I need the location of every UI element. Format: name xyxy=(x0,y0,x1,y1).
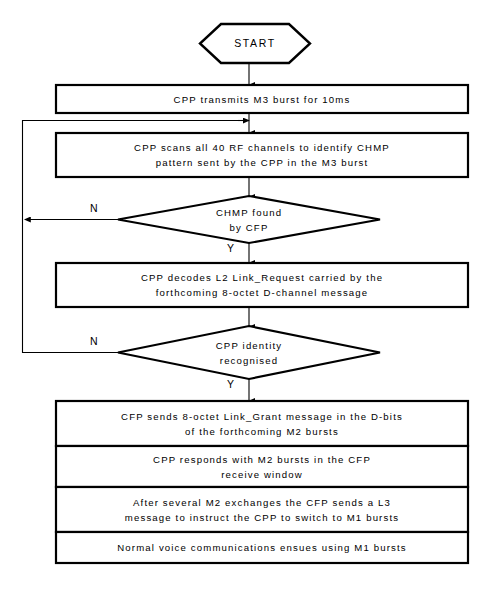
flowchart-canvas: START CPP transmits M3 burst for 10ms CP… xyxy=(0,0,499,595)
final-box-f3[interactable] xyxy=(56,487,468,532)
decision-d2-yes-label: Y xyxy=(227,379,235,390)
final-box-f4[interactable] xyxy=(56,532,468,563)
decision-d2[interactable] xyxy=(118,326,380,379)
process-box-p2[interactable] xyxy=(56,133,468,177)
process-box-p1[interactable] xyxy=(56,85,468,113)
process-box-p3[interactable] xyxy=(56,263,468,307)
start-terminator[interactable] xyxy=(200,24,310,63)
decision-d1[interactable] xyxy=(118,196,380,243)
decision-d1-yes-label: Y xyxy=(227,243,235,254)
decision-d2-no-label: N xyxy=(90,336,98,347)
final-box-f2[interactable] xyxy=(56,446,468,487)
final-box-f1[interactable] xyxy=(56,401,468,446)
decision-d1-no-label: N xyxy=(90,203,98,214)
